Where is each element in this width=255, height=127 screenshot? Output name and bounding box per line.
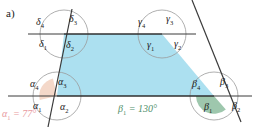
delta-1-label: δ1 [39, 39, 47, 52]
beta1-value: β1 = 130° [118, 104, 157, 117]
delta-2-label: δ2 [66, 40, 74, 53]
delta-3-label: δ3 [69, 14, 77, 27]
gamma-1-label: γ1 [147, 40, 154, 53]
alpha-4-label: α4 [30, 79, 39, 92]
gamma-3-label: γ3 [166, 14, 173, 27]
part-label: a) [6, 8, 15, 19]
trapezoid-interior [57, 34, 214, 96]
alpha-3-label: α3 [58, 77, 67, 90]
beta-2-label: β2 [232, 101, 240, 114]
geometry-figure: a) δ4δ3δ1δ2γ4γ3γ1γ2α4α3α1α2β4β3β1β2 α1 =… [0, 0, 255, 127]
gamma-4-label: γ4 [138, 17, 145, 30]
beta-1-label: β1 [204, 102, 212, 115]
alpha-2-label: α2 [60, 102, 69, 115]
gamma-2-label: γ2 [174, 39, 181, 52]
beta-4-label: β4 [192, 79, 200, 92]
alpha1-value: α1 = 77° [2, 109, 36, 122]
delta-4-label: δ4 [36, 17, 44, 30]
beta-3-label: β3 [220, 77, 228, 90]
